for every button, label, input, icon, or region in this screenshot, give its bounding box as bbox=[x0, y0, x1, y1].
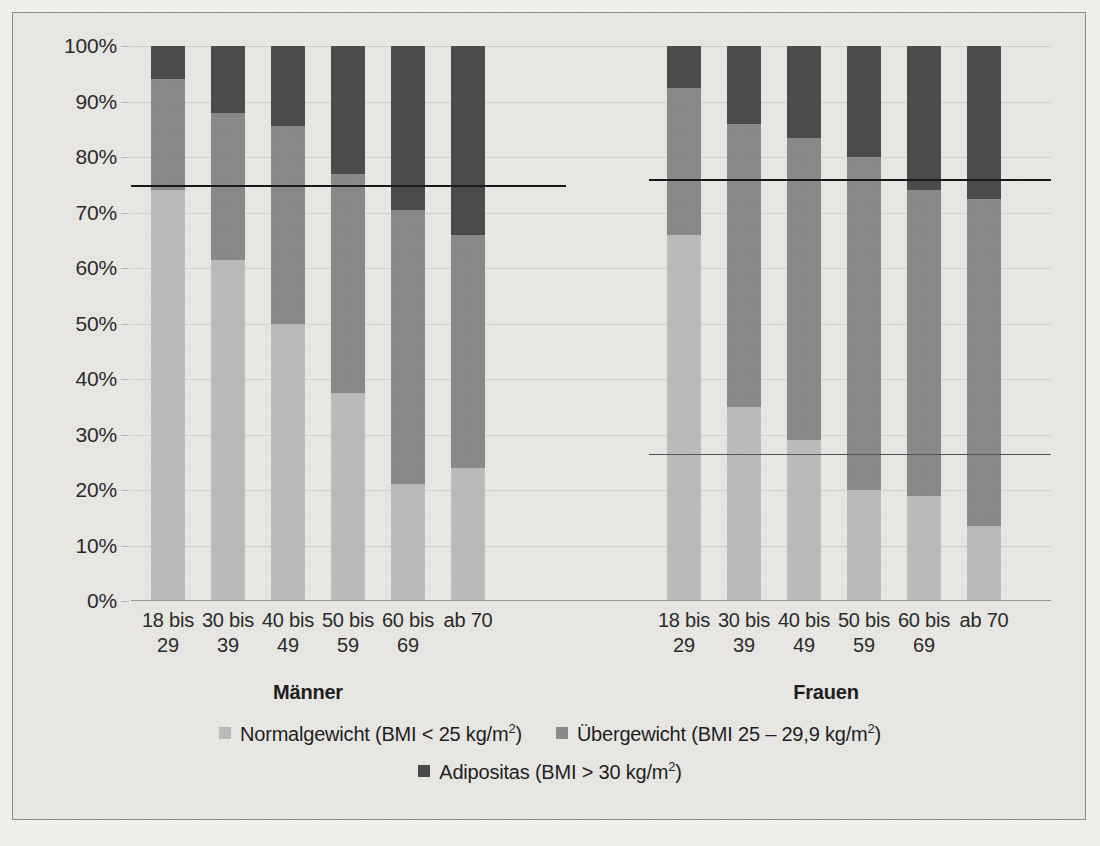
legend-label-uebergewicht-text: Übergewicht (BMI 25 – 29,9 kg/m bbox=[577, 723, 868, 745]
bar-segment[interactable] bbox=[847, 490, 881, 601]
legend-item-adipositas[interactable]: Adipositas (BMI > 30 kg/m2) bbox=[418, 759, 682, 784]
bar-segment[interactable] bbox=[151, 46, 185, 79]
bar-segment[interactable] bbox=[151, 190, 185, 601]
y-axis-tick-label: 90% bbox=[76, 90, 117, 114]
bar-segment[interactable] bbox=[787, 46, 821, 138]
legend-label-uebergewicht-sup: 2 bbox=[867, 721, 874, 736]
bar-segment[interactable] bbox=[331, 174, 365, 393]
y-axis-tick-mark bbox=[121, 435, 129, 436]
y-axis-tick-mark bbox=[121, 46, 129, 47]
bar-segment[interactable] bbox=[451, 468, 485, 601]
legend-item-normalgewicht[interactable]: Normalgewicht (BMI < 25 kg/m2) bbox=[219, 721, 522, 746]
y-axis-tick-label: 20% bbox=[76, 478, 117, 502]
legend-label-uebergewicht-tail: ) bbox=[875, 723, 881, 745]
y-axis-tick-label: 60% bbox=[76, 256, 117, 280]
x-axis-label-line2: 69 bbox=[362, 633, 454, 658]
x-axis-label: ab 70 bbox=[938, 608, 1030, 633]
y-axis-tick-label: 10% bbox=[76, 534, 117, 558]
group-label-maenner: Männer bbox=[208, 681, 408, 704]
bar-segment[interactable] bbox=[667, 235, 701, 601]
bar-segment[interactable] bbox=[211, 46, 245, 113]
bar-values_maenner-2[interactable] bbox=[271, 46, 305, 601]
reference-line-frauen bbox=[649, 454, 1051, 455]
y-axis-tick-mark bbox=[121, 490, 129, 491]
bar-segment[interactable] bbox=[331, 46, 365, 174]
bar-values_maenner-3[interactable] bbox=[331, 46, 365, 601]
y-axis-tick-label: 80% bbox=[76, 145, 117, 169]
legend-label-normalgewicht-tail: ) bbox=[515, 723, 521, 745]
bar-segment[interactable] bbox=[331, 393, 365, 601]
bar-segment[interactable] bbox=[967, 46, 1001, 199]
legend-item-uebergewicht[interactable]: Übergewicht (BMI 25 – 29,9 kg/m2) bbox=[556, 721, 881, 746]
bar-segment[interactable] bbox=[967, 526, 1001, 601]
bar-values_frauen-0[interactable] bbox=[667, 46, 701, 601]
y-axis-tick-mark bbox=[121, 102, 129, 103]
bar-segment[interactable] bbox=[727, 46, 761, 124]
bar-values_frauen-1[interactable] bbox=[727, 46, 761, 601]
y-axis-tick-mark bbox=[121, 213, 129, 214]
legend-label-adipositas-text: Adipositas (BMI > 30 kg/m bbox=[439, 760, 668, 782]
x-axis-baseline bbox=[131, 600, 1051, 601]
legend-swatch-adipositas bbox=[418, 765, 430, 777]
legend-row-1: Normalgewicht (BMI < 25 kg/m2) Übergewic… bbox=[13, 721, 1087, 746]
bar-segment[interactable] bbox=[391, 210, 425, 485]
legend-label-normalgewicht-text: Normalgewicht (BMI < 25 kg/m bbox=[240, 723, 508, 745]
y-axis-tick-label: 50% bbox=[76, 312, 117, 336]
y-axis-tick-mark bbox=[121, 379, 129, 380]
bar-segment[interactable] bbox=[271, 324, 305, 602]
bar-segment[interactable] bbox=[667, 88, 701, 235]
bar-segment[interactable] bbox=[667, 46, 701, 88]
legend-label-normalgewicht: Normalgewicht (BMI < 25 kg/m2) bbox=[240, 721, 522, 746]
y-axis-tick-mark bbox=[121, 546, 129, 547]
bar-segment[interactable] bbox=[847, 46, 881, 157]
group-labels: Männer Frauen bbox=[131, 681, 1051, 715]
y-axis-tick-label: 70% bbox=[76, 201, 117, 225]
bar-segment[interactable] bbox=[151, 79, 185, 190]
group-label-frauen: Frauen bbox=[726, 681, 926, 704]
y-axis-tick-mark bbox=[121, 324, 129, 325]
y-axis-tick-mark bbox=[121, 268, 129, 269]
bar-values_frauen-3[interactable] bbox=[847, 46, 881, 601]
bar-segment[interactable] bbox=[787, 138, 821, 440]
bar-segment[interactable] bbox=[271, 46, 305, 126]
bar-segment[interactable] bbox=[451, 235, 485, 468]
legend-swatch-uebergewicht bbox=[556, 727, 568, 739]
bar-segment[interactable] bbox=[787, 440, 821, 601]
bar-values_frauen-5[interactable] bbox=[967, 46, 1001, 601]
reference-line-frauen bbox=[649, 179, 1051, 181]
bar-values_maenner-4[interactable] bbox=[391, 46, 425, 601]
legend-row-2: Adipositas (BMI > 30 kg/m2) bbox=[13, 759, 1087, 784]
x-axis-labels: 18 bis2930 bis3940 bis4950 bis5960 bis69… bbox=[131, 608, 1051, 678]
bar-values_maenner-5[interactable] bbox=[451, 46, 485, 601]
bar-values_frauen-4[interactable] bbox=[907, 46, 941, 601]
bar-segment[interactable] bbox=[451, 46, 485, 235]
y-axis-tick-label: 30% bbox=[76, 423, 117, 447]
bar-values_maenner-1[interactable] bbox=[211, 46, 245, 601]
y-axis-tick-label: 0% bbox=[87, 589, 117, 613]
bar-segment[interactable] bbox=[847, 157, 881, 490]
legend-label-uebergewicht: Übergewicht (BMI 25 – 29,9 kg/m2) bbox=[577, 721, 881, 746]
legend-swatch-normalgewicht bbox=[219, 727, 231, 739]
y-axis-tick-mark bbox=[121, 157, 129, 158]
x-axis-label-line1: ab 70 bbox=[422, 608, 514, 633]
bar-segment[interactable] bbox=[727, 124, 761, 407]
bar-segment[interactable] bbox=[211, 260, 245, 601]
bar-segment[interactable] bbox=[391, 484, 425, 601]
bar-segment[interactable] bbox=[727, 407, 761, 601]
bar-segment[interactable] bbox=[907, 46, 941, 190]
legend-label-adipositas-tail: ) bbox=[675, 760, 681, 782]
bar-segment[interactable] bbox=[271, 126, 305, 323]
bar-segment[interactable] bbox=[907, 496, 941, 601]
bar-values_frauen-2[interactable] bbox=[787, 46, 821, 601]
bar-values_maenner-0[interactable] bbox=[151, 46, 185, 601]
chart-page: 100%90%80%70%60%50%40%30%20%10%0% 18 bis… bbox=[0, 0, 1100, 846]
chart-frame: 100%90%80%70%60%50%40%30%20%10%0% 18 bis… bbox=[12, 12, 1086, 820]
y-axis-tick-label: 40% bbox=[76, 367, 117, 391]
plot-area: 100%90%80%70%60%50%40%30%20%10%0% bbox=[131, 46, 1051, 601]
x-axis-label-line1: ab 70 bbox=[938, 608, 1030, 633]
bar-segment[interactable] bbox=[967, 199, 1001, 526]
legend-label-adipositas: Adipositas (BMI > 30 kg/m2) bbox=[439, 759, 682, 784]
y-axis-tick-label: 100% bbox=[64, 34, 117, 58]
chart-legend: Normalgewicht (BMI < 25 kg/m2) Übergewic… bbox=[13, 721, 1087, 796]
bar-segment[interactable] bbox=[907, 190, 941, 495]
